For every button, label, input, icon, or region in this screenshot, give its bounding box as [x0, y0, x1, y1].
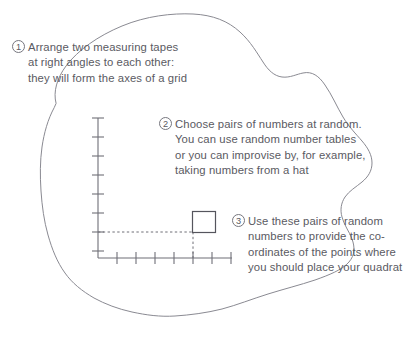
step-note-2-line-4: taking numbers from a hat [175, 163, 366, 178]
step-note-3-line-2: numbers to provide the co- [248, 229, 402, 244]
step-note-2-line-3: or you can improvise by, for example, [175, 148, 366, 163]
step-number-1: 1 [12, 40, 25, 53]
step-note-1-text: Arrange two measuring tapes at right ang… [28, 40, 187, 86]
step-note-2-line-2: You can use random number tables [175, 132, 366, 147]
step-note-3: 3 Use these pairs of random numbers to p… [232, 214, 402, 276]
step-note-2-line-1: Choose pairs of numbers at random. [175, 117, 366, 132]
step-note-2-text: Choose pairs of numbers at random. You c… [175, 117, 366, 179]
step-note-1-line-1: Arrange two measuring tapes [28, 40, 187, 55]
step-note-1: 1 Arrange two measuring tapes at right a… [12, 40, 187, 86]
step-note-1-line-3: they will form the axes of a grid [28, 71, 187, 86]
step-note-3-line-1: Use these pairs of random [248, 214, 402, 229]
step-note-3-line-4: you should place your quadrat [248, 260, 402, 275]
figure-canvas: 1 Arrange two measuring tapes at right a… [0, 0, 416, 347]
step-note-1-line-2: at right angles to each other: [28, 55, 187, 70]
step-note-3-line-3: ordinates of the points where [248, 245, 402, 260]
quadrat-square [193, 212, 216, 233]
step-number-2: 2 [159, 117, 172, 130]
step-note-3-text: Use these pairs of random numbers to pro… [248, 214, 402, 276]
step-note-2: 2 Choose pairs of numbers at random. You… [159, 117, 366, 179]
step-number-3: 3 [232, 214, 245, 227]
